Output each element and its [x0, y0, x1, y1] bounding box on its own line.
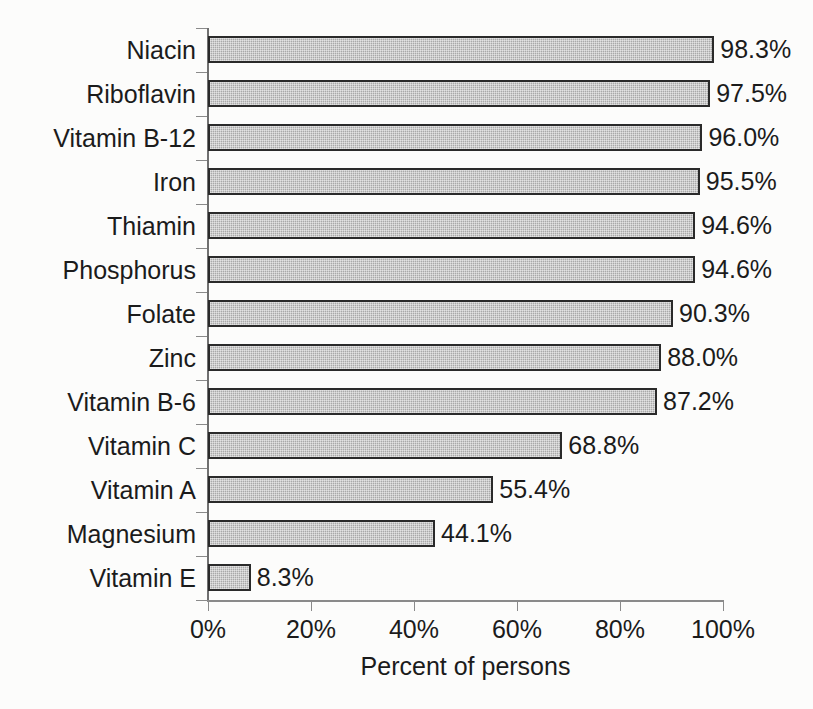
bar	[208, 476, 493, 503]
bar-value-label: 94.6%	[701, 253, 772, 285]
y-axis-tick	[196, 380, 207, 381]
y-axis-tick	[196, 424, 207, 425]
bar-value-label: 96.0%	[708, 121, 779, 153]
y-axis-tick	[196, 292, 207, 293]
bar-value-label: 98.3%	[720, 33, 791, 65]
bar	[208, 256, 695, 283]
bar	[208, 344, 661, 371]
bar-row: 97.5%	[208, 72, 723, 116]
bar	[208, 36, 714, 63]
y-axis-tick	[196, 512, 207, 513]
x-axis-tick	[208, 600, 209, 611]
category-label: Phosphorus	[0, 248, 196, 292]
bar-row: 8.3%	[208, 556, 723, 600]
bar	[208, 300, 673, 327]
bar	[208, 432, 562, 459]
y-axis-category-labels: NiacinRiboflavinVitamin B-12IronThiaminP…	[0, 28, 196, 600]
x-axis-tick	[414, 600, 415, 611]
x-axis-tick-label: 80%	[565, 613, 675, 645]
x-axis-tick	[723, 600, 724, 611]
bar-row: 88.0%	[208, 336, 723, 380]
bar-row: 94.6%	[208, 204, 723, 248]
x-axis-tick	[311, 600, 312, 611]
x-axis-title: Percent of persons	[207, 650, 724, 682]
bar-row: 98.3%	[208, 28, 723, 72]
x-axis-line	[207, 600, 724, 602]
category-label: Vitamin E	[0, 556, 196, 600]
bar-value-label: 44.1%	[441, 517, 512, 549]
y-axis-tick	[196, 556, 207, 557]
bar-row: 95.5%	[208, 160, 723, 204]
bar-value-label: 87.2%	[663, 385, 734, 417]
y-axis-tick	[196, 204, 207, 205]
bar-row: 87.2%	[208, 380, 723, 424]
y-axis-tick	[196, 600, 207, 601]
bar-row: 68.8%	[208, 424, 723, 468]
y-axis-tick	[196, 72, 207, 73]
bar	[208, 520, 435, 547]
bar	[208, 80, 710, 107]
x-axis-tick-label: 40%	[359, 613, 469, 645]
y-axis-tick	[196, 28, 207, 29]
bar-row: 94.6%	[208, 248, 723, 292]
bar	[208, 388, 657, 415]
bar-value-label: 90.3%	[679, 297, 750, 329]
category-label: Folate	[0, 292, 196, 336]
bar	[208, 212, 695, 239]
bar-row: 90.3%	[208, 292, 723, 336]
bar	[208, 124, 702, 151]
y-axis-tick	[196, 468, 207, 469]
bar-value-label: 94.6%	[701, 209, 772, 241]
y-axis-tick	[196, 336, 207, 337]
category-label: Iron	[0, 160, 196, 204]
bar-value-label: 55.4%	[499, 473, 570, 505]
plot-area: 98.3%97.5%96.0%95.5%94.6%94.6%90.3%88.0%…	[208, 28, 723, 600]
x-axis-tick-label: 20%	[256, 613, 366, 645]
x-axis-tick	[517, 600, 518, 611]
category-label: Zinc	[0, 336, 196, 380]
y-axis-tick	[196, 116, 207, 117]
bar	[208, 564, 251, 591]
x-axis-tick-label: 0%	[153, 613, 263, 645]
category-label: Niacin	[0, 28, 196, 72]
y-axis-tick	[196, 248, 207, 249]
category-label: Thiamin	[0, 204, 196, 248]
chart-figure: NiacinRiboflavinVitamin B-12IronThiaminP…	[0, 0, 813, 709]
x-axis-tick-label: 60%	[462, 613, 572, 645]
category-label: Vitamin B-12	[0, 116, 196, 160]
bar-value-label: 8.3%	[257, 561, 314, 593]
bar-row: 44.1%	[208, 512, 723, 556]
x-axis-tick	[620, 600, 621, 611]
category-label: Magnesium	[0, 512, 196, 556]
x-axis-tick-label: 100%	[668, 613, 778, 645]
category-label: Riboflavin	[0, 72, 196, 116]
bar-row: 96.0%	[208, 116, 723, 160]
bar	[208, 168, 700, 195]
category-label: Vitamin C	[0, 424, 196, 468]
bar-value-label: 68.8%	[568, 429, 639, 461]
bar-value-label: 88.0%	[667, 341, 738, 373]
bar-row: 55.4%	[208, 468, 723, 512]
y-axis-tick	[196, 160, 207, 161]
category-label: Vitamin B-6	[0, 380, 196, 424]
bar-value-label: 97.5%	[716, 77, 787, 109]
bar-value-label: 95.5%	[706, 165, 777, 197]
category-label: Vitamin A	[0, 468, 196, 512]
